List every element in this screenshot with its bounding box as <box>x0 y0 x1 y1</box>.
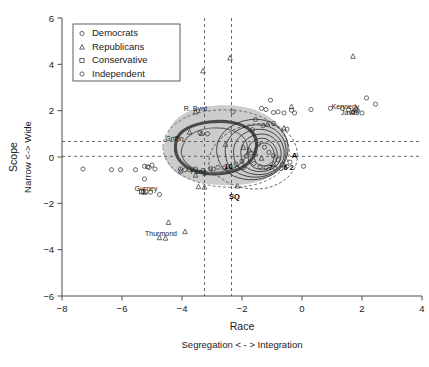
y-tick-label: 2 <box>49 105 54 116</box>
point-label: SQ <box>229 192 240 201</box>
x-tick-label: −2 <box>237 303 248 314</box>
x-tick-label: −6 <box>117 303 128 314</box>
x-tick-label: 4 <box>419 303 424 314</box>
point-label: 6 <box>283 163 287 172</box>
point-label: A <box>292 151 298 160</box>
chart-figure: R. ByrdGriffinFongGurneyThurmondKennedyJ… <box>0 0 429 367</box>
point-label: Thurmond <box>145 230 177 237</box>
scatter-plot-svg: R. ByrdGriffinFongGurneyThurmondKennedyJ… <box>0 0 429 367</box>
x-axis-title: Race <box>230 320 255 332</box>
y-tick-label: 6 <box>49 13 54 24</box>
y-tick-label: 4 <box>49 59 54 70</box>
point-label: 2 <box>289 163 293 172</box>
x-tick-label: 0 <box>299 303 304 314</box>
point-label: R. Byrd <box>184 105 207 113</box>
point-label: Griffin <box>165 135 184 142</box>
x-tick-label: −8 <box>57 303 68 314</box>
y-tick-label: −4 <box>43 244 54 255</box>
legend-label: Republicans <box>92 41 145 52</box>
legend-label: Democrats <box>92 27 138 38</box>
y-axis-title: Scope <box>7 142 19 172</box>
point-label: Javits <box>341 109 359 116</box>
y-tick-label: −2 <box>43 198 54 209</box>
point-label: Gurney <box>135 185 158 193</box>
y-tick-label: 0 <box>49 152 54 163</box>
point-label: 7 <box>268 163 272 172</box>
y-tick-label: −6 <box>43 291 54 302</box>
point-label: Fong <box>191 168 207 176</box>
x-axis-subtitle: Segregation < - > Integration <box>182 339 303 350</box>
legend: DemocratsRepublicansConservativeIndepend… <box>73 24 180 81</box>
legend-label: Conservative <box>92 54 147 65</box>
y-axis-subtitle: Narrow <-> Wide <box>22 121 33 193</box>
x-tick-label: 2 <box>359 303 364 314</box>
legend-label: Independent <box>92 68 145 79</box>
x-tick-label: −4 <box>177 303 188 314</box>
point-label: 10 <box>224 162 232 171</box>
